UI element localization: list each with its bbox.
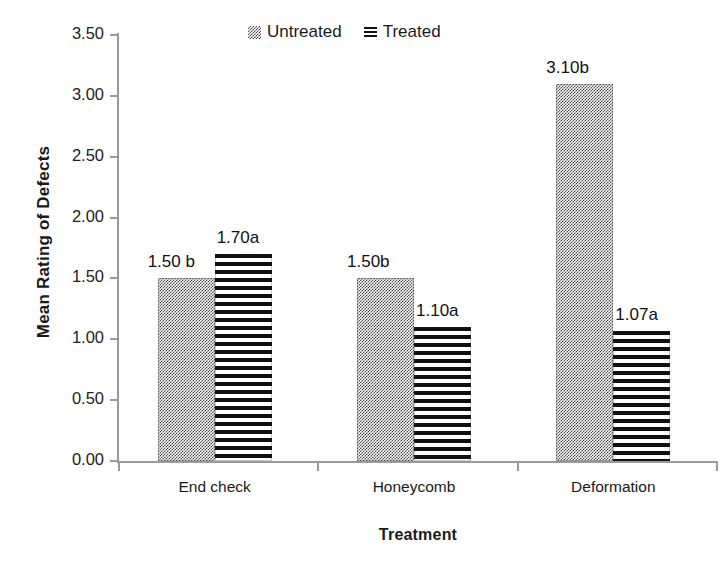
legend-label-untreated: Untreated bbox=[267, 22, 342, 42]
y-tick-mark bbox=[110, 460, 118, 462]
y-tick-label: 1.00 bbox=[24, 328, 104, 347]
bar-chart-figure: Mean Rating of Defects 0.000.501.001.502… bbox=[0, 0, 728, 570]
bar-treated-honeycomb[interactable] bbox=[414, 327, 471, 461]
bar-treated-end-check[interactable] bbox=[215, 254, 272, 461]
x-tick-mark bbox=[716, 461, 718, 471]
y-tick-mark bbox=[110, 338, 118, 340]
x-category-label: Honeycomb bbox=[373, 478, 456, 496]
x-tick-mark bbox=[317, 461, 319, 471]
x-axis-line bbox=[117, 461, 717, 463]
y-tick-mark bbox=[110, 399, 118, 401]
legend-item-treated[interactable]: Treated bbox=[364, 22, 441, 42]
y-tick-label: 2.50 bbox=[24, 146, 104, 165]
bar-value-label: 1.10a bbox=[416, 301, 459, 321]
bar-value-label: 1.70a bbox=[217, 228, 260, 248]
y-tick-mark bbox=[110, 156, 118, 158]
y-tick-mark bbox=[110, 217, 118, 219]
bar-value-label: 3.10b bbox=[546, 58, 589, 78]
y-tick-label: 0.50 bbox=[24, 389, 104, 408]
y-tick-mark bbox=[110, 34, 118, 36]
y-tick-label: 3.50 bbox=[24, 24, 104, 43]
bar-value-label: 1.50b bbox=[347, 252, 390, 272]
x-tick-mark bbox=[517, 461, 519, 471]
bar-untreated-honeycomb[interactable] bbox=[357, 278, 414, 461]
plot-area: 1.50 b1.70a1.50b1.10a3.10b1.07a bbox=[118, 35, 716, 461]
x-axis-title: Treatment bbox=[118, 526, 718, 544]
legend-label-treated: Treated bbox=[383, 22, 441, 42]
legend-item-untreated[interactable]: Untreated bbox=[248, 22, 342, 42]
striped-swatch-icon bbox=[364, 27, 377, 38]
bar-untreated-deformation[interactable] bbox=[556, 84, 613, 461]
bar-treated-deformation[interactable] bbox=[613, 331, 670, 461]
bar-value-label: 1.50 b bbox=[148, 252, 195, 272]
bar-value-label: 1.07a bbox=[615, 305, 658, 325]
chart-legend: Untreated Treated bbox=[248, 22, 441, 42]
y-tick-mark bbox=[110, 95, 118, 97]
y-tick-mark bbox=[110, 277, 118, 279]
bar-untreated-end-check[interactable] bbox=[158, 278, 215, 461]
y-tick-label: 3.00 bbox=[24, 85, 104, 104]
y-tick-label: 2.00 bbox=[24, 207, 104, 226]
x-category-label: End check bbox=[178, 478, 250, 496]
x-tick-mark bbox=[118, 461, 120, 471]
y-tick-label: 0.00 bbox=[24, 450, 104, 469]
y-tick-label: 1.50 bbox=[24, 267, 104, 286]
checkered-swatch-icon bbox=[248, 26, 261, 39]
x-category-label: Deformation bbox=[571, 478, 655, 496]
